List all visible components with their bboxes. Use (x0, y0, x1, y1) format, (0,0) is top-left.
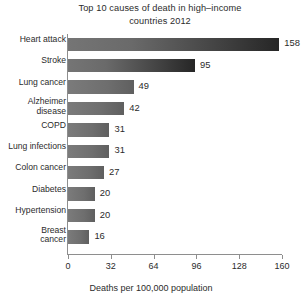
category-label-line: Heart attack (0, 34, 66, 44)
x-tick-mark (239, 255, 240, 259)
bar-value-label: 27 (109, 165, 119, 178)
x-tick-mark (68, 255, 69, 259)
category-label-line: cancer (0, 235, 66, 245)
category-label: Alzheimerdisease (0, 97, 66, 117)
category-label: Hypertension (0, 205, 66, 215)
x-axis-line (68, 254, 282, 255)
bar-row: Alzheimerdisease42 (0, 98, 302, 119)
x-tick-label: 32 (91, 261, 131, 271)
category-label: Breastcancer (0, 226, 66, 246)
bar (68, 230, 89, 243)
category-label-line: Lung cancer (0, 77, 66, 87)
bar (68, 59, 195, 72)
bar-row: Lung cancer49 (0, 77, 302, 98)
bar (68, 209, 95, 222)
x-tick-mark (111, 255, 112, 259)
bar-row: Hypertension20 (0, 205, 302, 226)
x-tick-label: 128 (219, 261, 259, 271)
bar (68, 123, 109, 136)
category-label-line: disease (0, 107, 66, 117)
category-label-line: Hypertension (0, 205, 66, 215)
category-label: Lung cancer (0, 77, 66, 87)
category-label-line: Diabetes (0, 184, 66, 194)
bar-value-label: 95 (200, 58, 210, 71)
bar (68, 145, 109, 158)
category-label: COPD (0, 120, 66, 130)
x-tick-label: 0 (48, 261, 88, 271)
bar-value-label: 31 (114, 143, 124, 156)
bar-row: COPD31 (0, 120, 302, 141)
x-tick-mark (282, 255, 283, 259)
chart-title-line-1: Top 10 causes of death in high–income (50, 2, 270, 15)
bar-row: Heart attack158 (0, 34, 302, 55)
category-label-line: COPD (0, 120, 66, 130)
bar (68, 166, 104, 179)
chart-title-line-2: countries 2012 (50, 15, 270, 28)
bar-chart: Top 10 causes of death in high–income co… (0, 0, 302, 305)
bar (68, 102, 124, 115)
category-label-line: Stroke (0, 55, 66, 65)
bar-value-label: 16 (94, 229, 104, 242)
x-tick-mark (196, 255, 197, 259)
chart-title: Top 10 causes of death in high–income co… (50, 2, 270, 27)
x-tick-mark (154, 255, 155, 259)
bar-value-label: 158 (284, 36, 300, 49)
category-label-line: Colon cancer (0, 162, 66, 172)
bar-row: Colon cancer27 (0, 162, 302, 183)
category-label: Stroke (0, 55, 66, 65)
category-label: Diabetes (0, 184, 66, 194)
bar-value-label: 20 (100, 186, 110, 199)
x-axis-title: Deaths per 100,000 population (0, 283, 302, 293)
bar-row: Lung infections31 (0, 141, 302, 162)
bar-value-label: 42 (129, 101, 139, 114)
bar-value-label: 20 (100, 208, 110, 221)
category-label: Lung infections (0, 141, 66, 151)
category-label-line: Lung infections (0, 141, 66, 151)
x-tick-label: 160 (262, 261, 302, 271)
bar (68, 38, 279, 51)
x-tick-label: 96 (176, 261, 216, 271)
plot-area: Heart attack158Stroke95Lung cancer49Alzh… (0, 34, 302, 248)
bar-row: Diabetes20 (0, 184, 302, 205)
category-label: Heart attack (0, 34, 66, 44)
bar (68, 80, 134, 93)
bar-row: Stroke95 (0, 55, 302, 76)
bar (68, 187, 95, 200)
bar-value-label: 31 (114, 122, 124, 135)
bar-value-label: 49 (139, 79, 149, 92)
category-label: Colon cancer (0, 162, 66, 172)
x-tick-label: 64 (134, 261, 174, 271)
bar-row: Breastcancer16 (0, 227, 302, 248)
